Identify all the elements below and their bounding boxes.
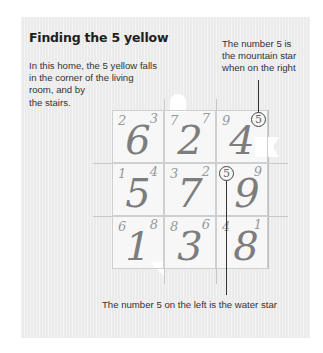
grid-cell: 6 8 1 — [112, 216, 164, 269]
grid-cell: 7 7 2 — [164, 110, 216, 163]
intro-text: In this home, the 5 yellow falls in the … — [29, 60, 159, 109]
main-number: 3 — [165, 224, 215, 268]
grid-cell: 3 2 7 — [164, 163, 216, 216]
intro-line: In this home, the 5 yellow falls — [29, 60, 159, 72]
annotation-line: the mountain star — [222, 50, 296, 62]
main-number: 6 — [113, 118, 163, 162]
circled-water-star: 5 — [219, 166, 234, 181]
main-number: 7 — [165, 171, 215, 215]
mountain-star-annotation: The number 5 is the mountain star when o… — [222, 38, 296, 75]
main-number: 9 — [227, 171, 267, 215]
main-number: 2 — [165, 118, 215, 162]
water-star-leader-line — [226, 180, 227, 295]
main-number: 5 — [113, 171, 163, 215]
water-star-annotation: The number 5 on the left is the water st… — [102, 299, 277, 310]
mountain-star-leader-line — [258, 80, 259, 113]
grid-cell: 1 4 5 — [112, 163, 164, 216]
annotation-line: when on the right — [222, 62, 296, 74]
grid-cell: 4 1 8 — [216, 216, 268, 269]
intro-line: room, and by — [29, 84, 159, 96]
main-number: 8 — [225, 224, 267, 268]
panel-title: Finding the 5 yellow — [29, 30, 168, 45]
grid-cell: 2 3 6 — [112, 110, 164, 163]
annotation-line: The number 5 is — [222, 38, 296, 50]
circled-mountain-star: 5 — [251, 112, 266, 127]
grid-cell: 8 6 3 — [164, 216, 216, 269]
intro-line: in the corner of the living — [29, 72, 159, 84]
intro-line: the stairs. — [29, 97, 159, 109]
main-number: 1 — [113, 224, 163, 268]
